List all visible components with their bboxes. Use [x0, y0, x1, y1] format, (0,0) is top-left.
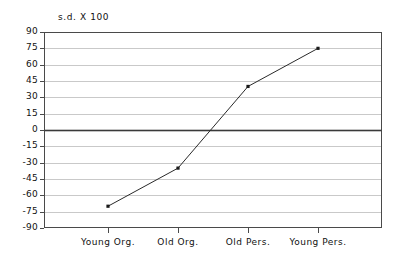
x-tick-mark [248, 228, 249, 233]
x-tick-label: Old Pers. [226, 237, 271, 247]
y-tick-mark [40, 195, 44, 196]
y-tick-label: -75 [8, 207, 38, 216]
x-tick-mark [318, 228, 319, 233]
y-tick-label: -60 [8, 190, 38, 199]
y-tick-mark [40, 163, 44, 164]
x-tick-label: Young Org. [81, 237, 135, 247]
y-tick-mark [40, 97, 44, 98]
gridline-30 [45, 97, 381, 98]
gridline--15 [45, 146, 381, 147]
x-tick-mark [108, 228, 109, 233]
gridline--60 [45, 195, 381, 196]
gridline-45 [45, 81, 381, 82]
y-tick-label: 45 [8, 76, 38, 85]
gridline--30 [45, 163, 381, 164]
zero-line [45, 130, 381, 131]
y-tick-mark [40, 130, 44, 131]
y-tick-label: -30 [8, 158, 38, 167]
y-tick-mark [40, 146, 44, 147]
y-tick-mark [40, 212, 44, 213]
gridline-60 [45, 65, 381, 66]
gridline--75 [45, 212, 381, 213]
y-tick-mark [40, 179, 44, 180]
y-tick-mark [40, 114, 44, 115]
y-tick-label: -45 [8, 174, 38, 183]
y-tick-mark [40, 32, 44, 33]
gridline-75 [45, 48, 381, 49]
plot-area [44, 32, 382, 228]
x-tick-mark [178, 228, 179, 233]
y-tick-mark [40, 48, 44, 49]
x-tick-label: Young Pers. [289, 237, 346, 247]
y-tick-label: 30 [8, 92, 38, 101]
y-tick-mark [40, 228, 44, 229]
chart-figure: s.d. X 100 9075604530150-15-30-45-60-75-… [0, 0, 403, 259]
x-tick-label: Old Org. [157, 237, 198, 247]
y-tick-mark [40, 65, 44, 66]
y-axis-title: s.d. X 100 [58, 12, 109, 22]
y-tick-label: -90 [8, 223, 38, 232]
y-tick-label: 0 [8, 125, 38, 134]
y-tick-mark [40, 81, 44, 82]
y-tick-label: -15 [8, 141, 38, 150]
y-tick-label: 90 [8, 27, 38, 36]
gridline-15 [45, 114, 381, 115]
y-tick-label: 15 [8, 109, 38, 118]
y-tick-label: 75 [8, 43, 38, 52]
gridline--45 [45, 179, 381, 180]
y-tick-label: 60 [8, 60, 38, 69]
